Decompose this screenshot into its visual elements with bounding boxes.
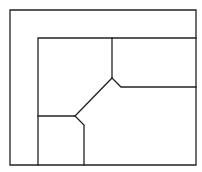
central-diagonal	[75, 78, 112, 116]
inner-frame	[38, 38, 196, 165]
upper-right-room-bottom	[112, 78, 196, 87]
lower-left-room-right	[75, 116, 84, 165]
room-dividers	[38, 38, 196, 165]
floor-plan-diagram	[0, 0, 202, 172]
